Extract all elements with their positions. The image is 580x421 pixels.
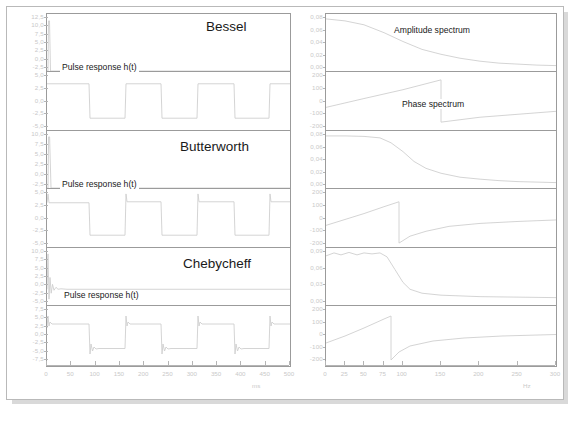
xaxis-time-tick-label: 400 — [235, 371, 245, 377]
yaxis-bessel-step-tick-mark — [44, 50, 48, 51]
xaxis-time-tick-label: 450 — [260, 371, 270, 377]
yaxis-butterworth-pulse-tick-label: 2,5 — [35, 202, 44, 208]
yaxis-butterworth-pulse-tick-mark — [44, 243, 48, 244]
yaxis-chebycheff-amplitude: 0,090,060,030,00 — [299, 247, 323, 305]
yaxis-chebycheff-step-tick-label: 0,0 — [35, 281, 44, 287]
yaxis-bessel-step-tick-label: -2,5 — [33, 64, 44, 70]
panel-chebycheff-phase-spectrum — [326, 306, 556, 364]
yaxis-chebycheff-pulse-tick-mark — [44, 351, 48, 352]
yaxis-butterworth-step-tick-label: -2,5 — [33, 181, 44, 187]
panel-chebycheff-amplitude-spectrum — [326, 248, 556, 306]
yaxis-chebycheff-step-tick-mark — [44, 251, 48, 252]
yaxis-bessel-phase-tick-label: 200 — [312, 72, 323, 78]
yaxis-butterworth-step-tick-mark — [44, 184, 48, 185]
yaxis-chebycheff-pulse-tick-mark — [44, 359, 48, 360]
yaxis-butterworth-pulse-tick-mark — [44, 230, 48, 231]
yaxis-chebycheff-step-tick-label: 10,0 — [31, 248, 44, 254]
yaxis-chebycheff-pulse-tick-label: 7,5 — [35, 306, 44, 312]
yaxis-chebycheff-pulse-tick-mark — [44, 317, 48, 318]
yaxis-butterworth-step-tick-label: 7,5 — [35, 141, 44, 147]
yaxis-bessel-pulse-tick-mark — [44, 113, 48, 114]
yaxis-chebycheff-phase-tick-label: -100 — [310, 343, 323, 349]
xaxis-freq-tick-label: 0 — [323, 371, 326, 377]
yaxis-bessel-step-tick-mark — [44, 34, 48, 35]
yaxis-butterworth-pulse-tick-label: 5,0 — [35, 189, 44, 195]
yaxis-chebycheff-step: 10,07,55,02,50,0-2,5-5,0 — [22, 247, 44, 305]
yaxis-butterworth-pulse-tick-label: -2,5 — [33, 227, 44, 233]
yaxis-butterworth-pulse-tick-label: -5,0 — [33, 240, 44, 246]
amplitude-spectrum-label: Amplitude spectrum — [392, 25, 472, 35]
xaxis-freq: 0255075100150200250300 — [325, 365, 555, 383]
yaxis-chebycheff-pulse-tick-label: -5,0 — [33, 348, 44, 354]
xaxis-freq-tick-label: 100 — [396, 371, 406, 377]
xaxis-freq-tick-label: 200 — [473, 371, 483, 377]
yaxis-chebycheff-amplitude-tick-label: 0,00 — [310, 298, 323, 304]
xaxis-freq-tick-mark — [344, 361, 345, 365]
yaxis-bessel-step-tick-label: 7,5 — [35, 31, 44, 37]
yaxis-chebycheff-step-tick-label: 2,5 — [35, 273, 44, 279]
xaxis-time-tick-mark — [168, 361, 169, 365]
yaxis-chebycheff-step-tick-mark — [44, 301, 48, 302]
yaxis-bessel-step-tick-label: 12,5 — [31, 14, 44, 20]
yaxis-bessel-step: 12,510,07,55,02,50,0-2,5 — [22, 13, 44, 71]
yaxis-butterworth-phase-tick-label: 100 — [312, 202, 323, 208]
yaxis-bessel-pulse-tick-mark — [44, 101, 48, 102]
xaxis-time-tick-mark — [216, 361, 217, 365]
xaxis-time-tick-mark — [240, 361, 241, 365]
yaxis-chebycheff-pulse-tick-mark — [44, 342, 48, 343]
xaxis-freq-tick-mark — [363, 361, 364, 365]
yaxis-chebycheff-pulse-tick-label: -7,5 — [33, 356, 44, 362]
xaxis-time-tick-label: 100 — [89, 371, 99, 377]
panel-chebycheff-pulse-response — [47, 306, 290, 364]
xaxis-time-tick-mark — [119, 361, 120, 365]
yaxis-bessel-step-tick-mark — [44, 25, 48, 26]
yaxis-chebycheff-step-tick-mark — [44, 259, 48, 260]
xaxis-time-tick-mark — [70, 361, 71, 365]
xaxis-time-tick-label: 0 — [44, 371, 47, 377]
xaxis-time-tick-label: 350 — [211, 371, 221, 377]
yaxis-chebycheff-step-tick-label: 5,0 — [35, 265, 44, 271]
xaxis-freq-tick-mark — [478, 361, 479, 365]
xaxis-freq-tick-mark — [402, 361, 403, 365]
yaxis-bessel-phase-tick-label: 100 — [312, 85, 323, 91]
yaxis-butterworth-step-tick-label: 2,5 — [35, 161, 44, 167]
xaxis-freq-unit: Hz — [523, 382, 531, 389]
yaxis-butterworth-pulse-tick-mark — [44, 192, 48, 193]
yaxis-bessel-phase-tick-label: -100 — [310, 110, 323, 116]
xaxis-freq-tick-label: 50 — [360, 371, 367, 377]
pulse-response-label-bessel: Pulse response h(t) — [60, 62, 139, 72]
yaxis-butterworth-amplitude: 0,080,060,040,020,00 — [299, 130, 323, 188]
yaxis-butterworth-step-tick-mark — [44, 154, 48, 155]
yaxis-bessel-pulse-tick-label: 2,5 — [35, 85, 44, 91]
xaxis-freq-tick-label: 250 — [511, 371, 521, 377]
yaxis-butterworth-phase-tick-label: 200 — [312, 189, 323, 195]
yaxis-bessel-phase-tick-label: -200 — [310, 123, 323, 129]
frequency-domain-panel-group — [325, 13, 557, 367]
yaxis-butterworth-phase-tick-label: -100 — [310, 227, 323, 233]
yaxis-butterworth-step-tick-label: 5,0 — [35, 151, 44, 157]
xaxis-freq-tick-label: 300 — [550, 371, 560, 377]
yaxis-chebycheff-amplitude-tick-label: 0,06 — [310, 265, 323, 271]
yaxis-butterworth-phase: 2001000-100-200 — [299, 188, 323, 247]
yaxis-bessel-amplitude-tick-label: 0,00 — [310, 64, 323, 70]
xaxis-freq-tick-mark — [325, 361, 326, 365]
yaxis-bessel-amplitude-tick-label: 0,04 — [310, 39, 323, 45]
yaxis-chebycheff-phase-tick-label: 100 — [312, 318, 323, 324]
yaxis-bessel-pulse-tick-label: -5,0 — [33, 123, 44, 129]
yaxis-bessel-step-tick-label: 5,0 — [35, 39, 44, 45]
yaxis-chebycheff-pulse-tick-mark — [44, 309, 48, 310]
yaxis-chebycheff-pulse-tick-label: 2,5 — [35, 323, 44, 329]
yaxis-butterworth-step-tick-label: 10,0 — [31, 131, 44, 137]
xaxis-freq-tick-label: 75 — [379, 371, 386, 377]
yaxis-chebycheff-phase-tick-label: 200 — [312, 306, 323, 312]
yaxis-bessel-amplitude-tick-label: 0,06 — [310, 26, 323, 32]
xaxis-time-tick-label: 50 — [67, 371, 74, 377]
yaxis-butterworth-pulse-tick-label: 0,0 — [35, 214, 44, 220]
xaxis-time-tick-mark — [143, 361, 144, 365]
panel-bessel-amplitude-spectrum — [326, 14, 556, 72]
yaxis-bessel-pulse: 5,02,50,0-2,5-5,0 — [22, 71, 44, 130]
yaxis-bessel-pulse-tick-mark — [44, 126, 48, 127]
xaxis-time-tick-mark — [265, 361, 266, 365]
xaxis-time-tick-label: 150 — [114, 371, 124, 377]
yaxis-chebycheff-step-tick-label: 7,5 — [35, 256, 44, 262]
